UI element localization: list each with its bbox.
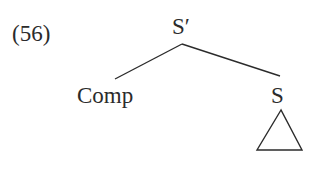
tree-branches [0,0,314,176]
triangle-subtree-icon [257,110,302,150]
branch-left [115,44,182,79]
branch-right [182,44,280,76]
